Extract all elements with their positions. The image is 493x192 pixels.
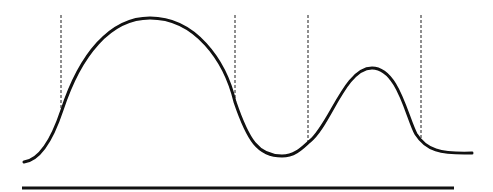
bimodal-curve-diagram [0,0,493,192]
dashed-markers [61,15,421,142]
bimodal-curve [24,18,472,162]
